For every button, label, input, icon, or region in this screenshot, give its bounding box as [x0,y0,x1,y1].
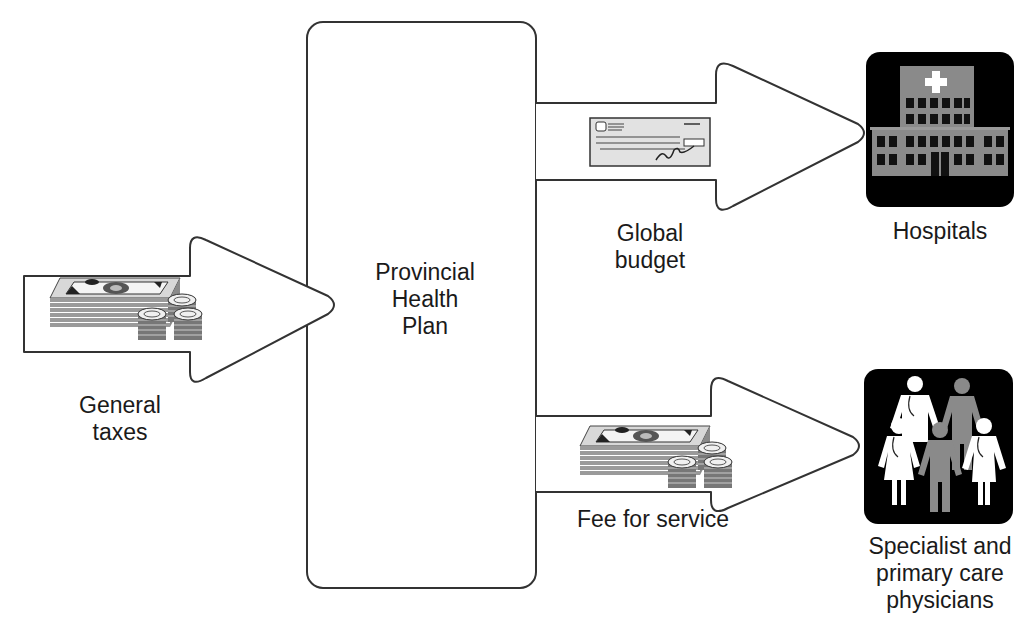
physicians-label: Specialist and primary care physicians [850,533,1029,614]
general-taxes-label: General taxes [40,392,200,446]
physicians-group-icon [864,369,1013,524]
cheque-icon [590,118,710,166]
fee-for-service-label: Fee for service [548,506,758,533]
global-budget-label: Global budget [570,220,730,274]
hospitals-label: Hospitals [855,218,1025,245]
hospital-icon [866,52,1014,207]
provincial-health-plan-label: Provincial Health Plan [345,259,505,340]
